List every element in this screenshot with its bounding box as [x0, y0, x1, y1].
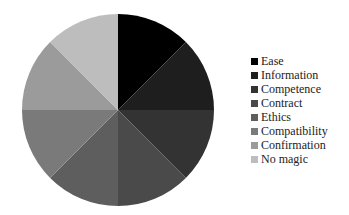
legend-label: Compatibility	[261, 124, 328, 138]
legend-label: Competence	[261, 82, 321, 96]
legend-label: Confirmation	[261, 138, 326, 152]
legend-item: Competence	[251, 82, 328, 96]
legend-item: Contract	[251, 96, 328, 110]
pie-slices	[22, 14, 214, 206]
legend-swatch	[251, 58, 258, 65]
legend-item: Ethics	[251, 110, 328, 124]
legend-item: No magic	[251, 152, 328, 166]
legend-item: Ease	[251, 54, 328, 68]
legend-label: No magic	[261, 152, 308, 166]
legend-swatch	[251, 100, 258, 107]
legend-item: Information	[251, 68, 328, 82]
legend: Ease Information Competence Contract Eth…	[251, 54, 328, 166]
legend-item: Compatibility	[251, 124, 328, 138]
legend-label: Contract	[261, 96, 302, 110]
legend-swatch	[251, 156, 258, 163]
legend-item: Confirmation	[251, 138, 328, 152]
legend-label: Ease	[261, 54, 284, 68]
legend-swatch	[251, 86, 258, 93]
legend-swatch	[251, 128, 258, 135]
legend-label: Ethics	[261, 110, 291, 124]
legend-label: Information	[261, 68, 318, 82]
legend-swatch	[251, 142, 258, 149]
legend-swatch	[251, 72, 258, 79]
legend-swatch	[251, 114, 258, 121]
